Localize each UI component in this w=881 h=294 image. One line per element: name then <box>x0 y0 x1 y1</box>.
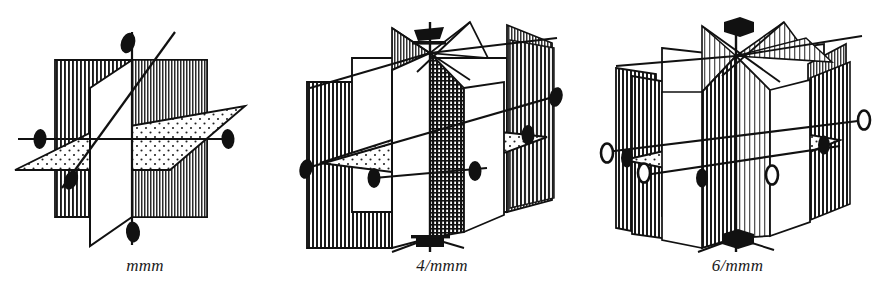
axis-marker-top <box>118 31 138 55</box>
caption-6mmm: 6/mmm <box>594 256 881 276</box>
figure-root: mmm <box>0 0 881 294</box>
caption-4mmm: 4/mmm <box>292 256 592 276</box>
plane-front-white <box>392 53 430 248</box>
axis-marker-top <box>412 27 446 45</box>
caption-mmm: mmm <box>0 256 290 276</box>
axis-marker-left-outer <box>601 144 613 163</box>
plane-vertical-front <box>90 60 132 246</box>
axis-marker-front-left <box>368 168 381 188</box>
panel-mmm: mmm <box>0 0 290 294</box>
axis-marker-back-right <box>522 125 535 145</box>
axis-marker-front-left <box>696 169 708 188</box>
diagram-4mmm <box>292 0 592 294</box>
diagram-6mmm <box>594 0 881 294</box>
axis-marker-bottom <box>411 235 450 247</box>
axis-marker-front-right <box>469 161 482 181</box>
axis-marker-left-inner <box>621 149 633 168</box>
axis-marker-top <box>724 17 754 37</box>
axis-marker-left <box>33 129 47 150</box>
panel-4mmm: 4/mmm <box>292 0 592 294</box>
plane-front-right-white <box>464 82 504 232</box>
axis-marker-bottom <box>125 221 141 243</box>
axis-marker-right <box>221 129 235 150</box>
axis-marker-right-outer <box>858 111 870 130</box>
axis-marker-right-inner <box>818 136 830 155</box>
axis-marker-front-right <box>766 166 778 185</box>
plane-front-right-white <box>770 80 810 236</box>
axis-marker-left-low <box>638 164 650 183</box>
diagram-mmm <box>0 0 290 294</box>
plane-far-right-hatched <box>510 40 554 208</box>
panel-6mmm: 6/mmm <box>594 0 881 294</box>
